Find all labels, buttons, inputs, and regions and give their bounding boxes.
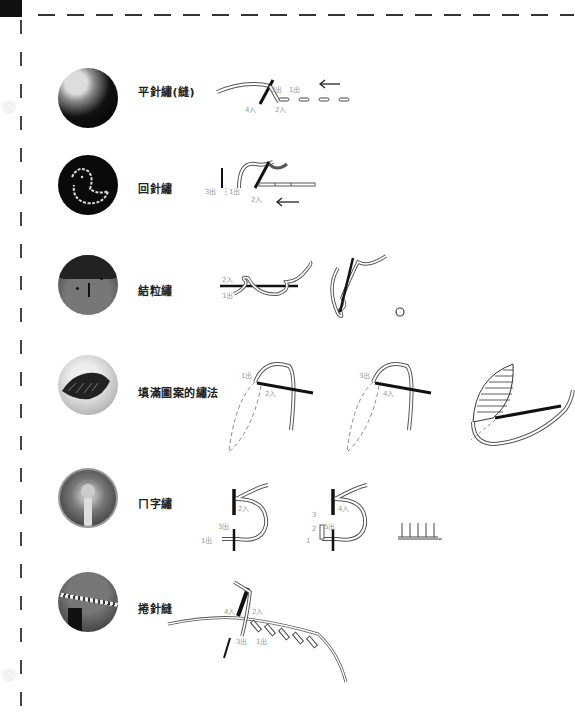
french-knot-diagram: 2入1出 <box>218 258 438 318</box>
svg-text:3: 3 <box>312 511 316 519</box>
back-stitch-diagram: 3出1出 2入 <box>205 158 325 208</box>
svg-text:3出: 3出 <box>218 522 229 531</box>
satin-stitch-photo <box>58 355 118 415</box>
svg-text:4入: 4入 <box>338 505 349 513</box>
svg-text:3出: 3出 <box>359 371 370 380</box>
svg-text:3出: 3出 <box>271 85 282 94</box>
stitch-name: 平針繡(縫) <box>138 83 195 99</box>
svg-text:2入: 2入 <box>238 505 249 513</box>
svg-text:1出: 1出 <box>241 371 252 380</box>
svg-text:4入: 4入 <box>224 608 235 616</box>
back-stitch-photo <box>58 155 118 215</box>
svg-text:1出: 1出 <box>229 187 240 196</box>
bleed-spot <box>2 100 16 114</box>
svg-text:2入: 2入 <box>265 390 276 398</box>
svg-text:2入: 2入 <box>252 608 263 616</box>
stitch-name: 回針繡 <box>138 180 173 196</box>
svg-text:2入: 2入 <box>222 276 233 284</box>
top-cut-line <box>38 14 574 16</box>
whip-stitch-photo <box>58 572 118 632</box>
svg-text:1出: 1出 <box>201 536 212 545</box>
blanket-stitch-photo <box>58 468 118 528</box>
stitch-name: 填滿圖案的繡法 <box>138 384 219 400</box>
bleed-spot <box>2 668 16 682</box>
svg-text:2入: 2入 <box>251 196 262 204</box>
svg-text:1出: 1出 <box>289 85 300 94</box>
svg-text:1出: 1出 <box>222 291 233 300</box>
running-stitch-diagram: 3出1出 4入2入 <box>215 76 365 116</box>
stitch-name: ㄇ字繡 <box>138 495 173 511</box>
running-stitch-photo <box>58 68 118 128</box>
corner-mark <box>0 0 22 17</box>
svg-text:4入: 4入 <box>383 390 394 398</box>
svg-text:3出: 3出 <box>236 637 247 646</box>
left-cut-line <box>20 20 22 718</box>
svg-text:3出: 3出 <box>205 187 216 196</box>
svg-text:2: 2 <box>312 525 316 533</box>
svg-text:1: 1 <box>306 537 310 545</box>
svg-text:1出: 1出 <box>256 637 267 646</box>
satin-stitch-diagram: 1出2入 3出4入 <box>225 360 575 460</box>
svg-text:4入: 4入 <box>245 106 256 114</box>
whip-stitch-diagram: 4入2入 3出1出 <box>168 582 358 692</box>
french-knot-photo <box>58 255 118 315</box>
svg-text:2入: 2入 <box>275 106 286 114</box>
svg-text:5出: 5出 <box>324 522 335 531</box>
stitch-name: 結粒繡 <box>138 282 173 298</box>
blanket-stitch-diagram: 2入3出1出 4入3 215出 <box>198 485 458 555</box>
